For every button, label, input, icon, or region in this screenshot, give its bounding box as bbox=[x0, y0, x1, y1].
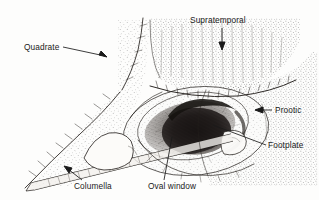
label-quadrate: Quadrate bbox=[24, 43, 59, 51]
label-prootic: Prootic bbox=[275, 106, 302, 114]
label-columella: Columella bbox=[74, 182, 112, 190]
label-supratemporal: Supratemporal bbox=[190, 16, 246, 24]
label-oval-window: Oval window bbox=[148, 182, 196, 190]
anatomical-figure: Quadrate Supratemporal Prootic Footplate… bbox=[0, 0, 319, 200]
diagram-artwork bbox=[0, 0, 319, 200]
label-footplate: Footplate bbox=[268, 141, 304, 149]
